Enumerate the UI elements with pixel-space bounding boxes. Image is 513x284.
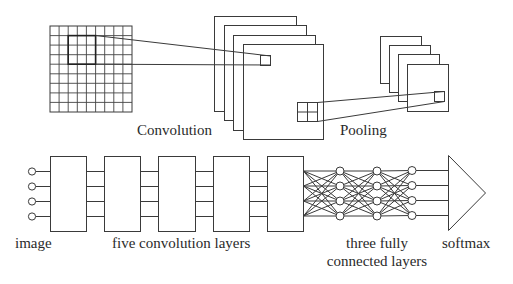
input-grid xyxy=(50,26,132,112)
dense-connections-2 xyxy=(340,171,377,216)
softmax-label: softmax xyxy=(442,235,490,251)
convolution-feature-maps xyxy=(215,17,324,140)
input-nodes xyxy=(28,168,35,220)
pooling-feature-maps xyxy=(381,37,449,112)
pooling-label: Pooling xyxy=(340,122,387,138)
kernel-highlight xyxy=(68,36,95,65)
softmax-triangle xyxy=(449,156,486,231)
conv-block-5 xyxy=(268,157,304,232)
dense-connections-1 xyxy=(304,171,341,216)
conv-block-3 xyxy=(159,157,196,232)
conv-blocks xyxy=(51,157,304,232)
conv-block-4 xyxy=(214,157,250,232)
conv-block-1 xyxy=(51,157,87,232)
conv-layers-label: five convolution layers xyxy=(112,235,250,251)
cnn-architecture-diagram: Convolution Pooling image five convoluti… xyxy=(0,0,513,284)
conv-block-2 xyxy=(105,157,141,232)
diagram-canvas xyxy=(0,0,513,284)
image-label: image xyxy=(15,235,52,251)
fc-label-line2: connected layers xyxy=(326,253,428,269)
fc-label-line1: three fully xyxy=(326,235,428,251)
dense-connections-3 xyxy=(377,171,412,217)
convolution-label: Convolution xyxy=(137,122,212,138)
